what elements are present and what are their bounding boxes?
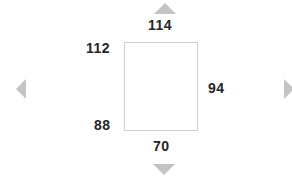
triangle-left-icon[interactable] [16, 79, 26, 99]
margin-adjust-widget: 114 112 94 88 70 [0, 0, 292, 185]
dimension-label-bottom[interactable]: 70 [153, 139, 170, 153]
dimension-label-top[interactable]: 114 [148, 18, 172, 32]
dimension-label-bottom-left[interactable]: 88 [94, 118, 111, 132]
triangle-right-icon[interactable] [284, 79, 292, 99]
dimension-label-left[interactable]: 112 [86, 41, 110, 55]
page-rectangle[interactable] [124, 42, 198, 131]
dimension-label-right[interactable]: 94 [208, 81, 225, 95]
triangle-up-icon[interactable] [154, 3, 176, 14]
triangle-down-icon[interactable] [153, 164, 175, 175]
